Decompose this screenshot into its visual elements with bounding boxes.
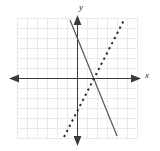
x-axis-label: x xyxy=(144,70,149,80)
graph-figure: y x xyxy=(0,0,160,151)
y-axis-label: y xyxy=(78,2,83,12)
coordinate-plane-svg: y x xyxy=(0,0,160,151)
